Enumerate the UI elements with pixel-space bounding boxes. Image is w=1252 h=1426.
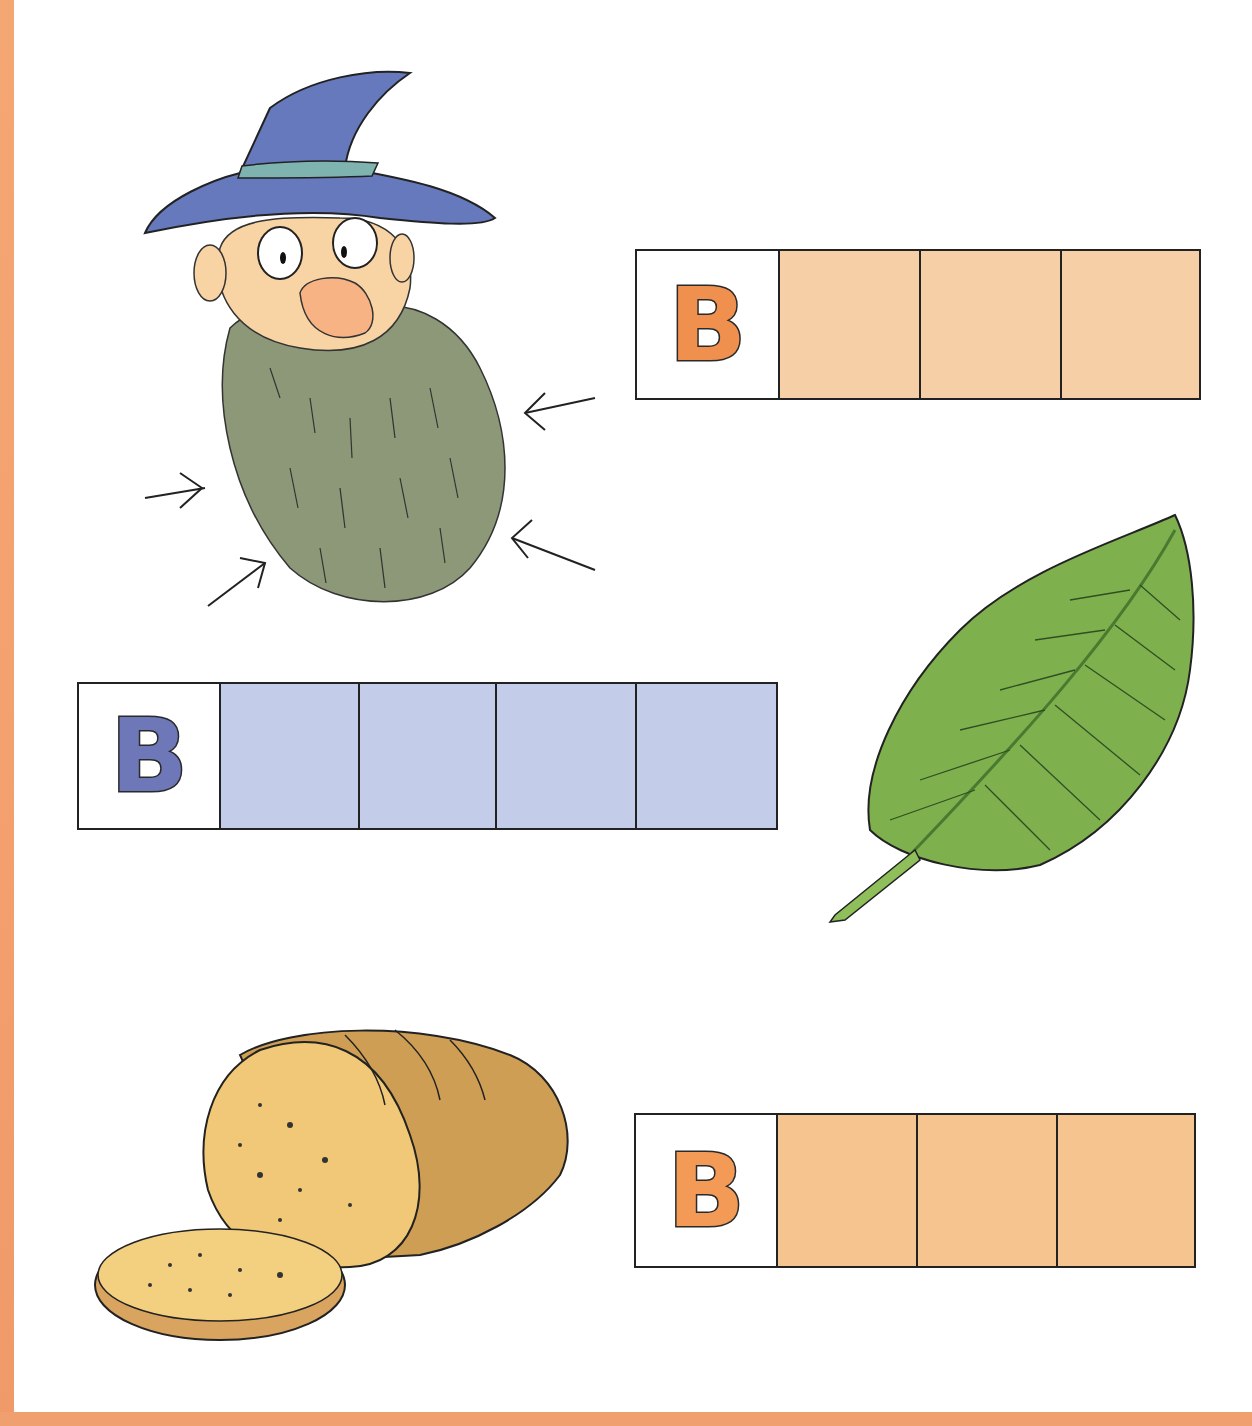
bread-icon <box>90 1015 590 1365</box>
wizard-beard-icon <box>140 68 610 618</box>
blank-letter-box[interactable] <box>776 1115 916 1266</box>
leaf-icon <box>820 510 1200 925</box>
first-letter-box: B <box>637 251 778 398</box>
first-letter: B <box>667 1140 745 1242</box>
first-letter-box: B <box>79 684 219 828</box>
first-letter: B <box>669 274 747 376</box>
word-boxes-leaf: B <box>77 682 778 830</box>
blank-letter-box[interactable] <box>916 1115 1056 1266</box>
blank-letter-box[interactable] <box>919 251 1060 398</box>
blank-letter-box[interactable] <box>1060 251 1199 398</box>
blank-letter-box[interactable] <box>495 684 635 828</box>
page-border-left <box>0 0 14 1426</box>
blank-letter-box[interactable] <box>778 251 919 398</box>
word-boxes-beard: B <box>635 249 1201 400</box>
blank-letter-box[interactable] <box>219 684 358 828</box>
blank-letter-box[interactable] <box>635 684 776 828</box>
page-border-bottom <box>0 1412 1252 1426</box>
first-letter-box: B <box>636 1115 776 1266</box>
blank-letter-box[interactable] <box>358 684 495 828</box>
blank-letter-box[interactable] <box>1056 1115 1194 1266</box>
first-letter: B <box>110 705 188 807</box>
word-boxes-bread: B <box>634 1113 1196 1268</box>
